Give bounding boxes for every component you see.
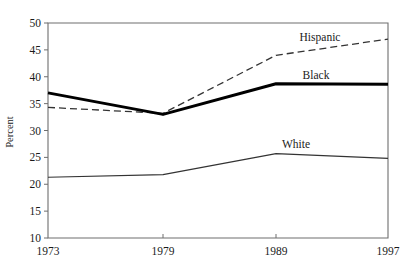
x-tick-label: 1997 — [377, 245, 400, 257]
x-tick-label: 1989 — [265, 245, 288, 257]
line-chart: 101520253035404550 1973197919891997 Perc… — [0, 0, 405, 262]
y-tick-label: 20 — [30, 178, 42, 190]
series-labels: HispanicBlackWhite — [282, 31, 341, 150]
y-tick-label: 35 — [30, 98, 42, 110]
x-tick-label: 1979 — [152, 245, 175, 257]
y-tick-label: 45 — [30, 44, 42, 56]
series-line-black — [48, 84, 388, 115]
plot-border — [48, 23, 388, 238]
y-axis-ticks: 101520253035404550 — [30, 17, 49, 244]
y-tick-label: 30 — [30, 125, 42, 137]
series-group — [48, 39, 388, 177]
y-tick-label: 50 — [30, 17, 42, 29]
series-label-black: Black — [303, 69, 330, 81]
series-label-white: White — [282, 138, 310, 150]
x-tick-label: 1973 — [37, 245, 60, 257]
y-tick-label: 10 — [30, 232, 42, 244]
chart-container: 101520253035404550 1973197919891997 Perc… — [0, 0, 405, 262]
plot-frame — [48, 23, 388, 238]
y-tick-label: 25 — [30, 151, 42, 163]
series-label-hispanic: Hispanic — [300, 31, 341, 44]
y-tick-label: 40 — [30, 71, 42, 83]
y-axis-title: Percent — [4, 116, 15, 148]
y-tick-label: 15 — [30, 205, 42, 217]
series-line-white — [48, 154, 388, 178]
